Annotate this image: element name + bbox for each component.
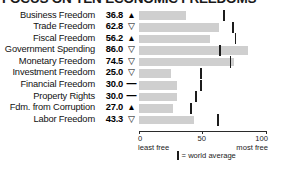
value-bar (139, 81, 177, 90)
value-bar (139, 116, 194, 125)
legend: = world average (177, 151, 236, 160)
world-average-marker (200, 80, 202, 91)
freedom-row-plot (139, 33, 266, 45)
freedom-row-plot (139, 114, 266, 126)
freedom-row-value: 62.8 (98, 21, 123, 31)
freedom-row-label: Property Rights (33, 91, 95, 101)
world-average-marker (235, 33, 237, 44)
freedom-row-label: Financial Freedom (21, 79, 95, 89)
legend-label: = world average (182, 151, 236, 160)
freedom-row-label: Fiscal Freedom (33, 33, 95, 43)
trend-up-icon: ▲ (126, 10, 137, 20)
freedom-row-label: Fdm. from Corruption (10, 102, 95, 112)
freedom-row-plot (139, 80, 266, 92)
freedom-row-label: Investment Freedom (12, 67, 95, 77)
freedom-row-value: 30.0 (98, 79, 123, 89)
value-bar (139, 35, 210, 44)
freedom-row-value: 25.0 (98, 67, 123, 77)
freedom-row-value: 36.8 (98, 10, 123, 20)
freedom-row: Government Spending86.0▽ (0, 45, 281, 57)
world-average-marker (200, 68, 202, 79)
trend-down-icon: ▽ (126, 21, 137, 31)
freedom-row-plot (139, 56, 266, 68)
axis-tick-label: 50 (198, 134, 206, 143)
economic-freedoms-chart: FOCUS ON TEN ECONOMIC FREEDOMS Business … (0, 0, 281, 171)
freedom-row-label: Monetary Freedom (19, 56, 95, 66)
trend-flat-icon: — (126, 91, 137, 101)
freedom-row: Trade Freedom62.8▽ (0, 22, 281, 34)
freedom-row-value: 27.0 (98, 102, 123, 112)
world-average-marker (219, 45, 221, 56)
trend-down-icon: ▽ (126, 67, 137, 77)
value-bar (139, 104, 173, 113)
trend-flat-icon: — (126, 79, 137, 89)
value-bar (139, 23, 219, 32)
freedom-row-plot (139, 68, 266, 80)
trend-down-icon: ▽ (126, 44, 137, 54)
freedom-row-value: 56.2 (98, 33, 123, 43)
trend-up-icon: ▲ (126, 102, 137, 112)
trend-down-icon: ▽ (126, 56, 137, 66)
world-average-marker (190, 103, 192, 114)
freedom-row-value: 86.0 (98, 44, 123, 54)
freedom-row-plot (139, 91, 266, 103)
freedom-row-value: 30.0 (98, 91, 123, 101)
freedom-row-label: Business Freedom (20, 10, 95, 20)
freedom-row-plot (139, 45, 266, 57)
freedom-row: Labor Freedom43.3▽ (0, 114, 281, 126)
freedom-row: Financial Freedom30.0— (0, 80, 281, 92)
value-bar (139, 11, 186, 20)
trend-down-icon: ▽ (126, 114, 137, 124)
freedom-row: Monetary Freedom74.5▽ (0, 56, 281, 68)
freedom-row-plot (139, 10, 266, 22)
freedom-row-label: Labor Freedom (33, 114, 95, 124)
axis-tick-sublabel: least free (138, 143, 169, 152)
freedom-row-label: Trade Freedom (33, 21, 95, 31)
world-average-marker (232, 22, 234, 33)
value-bar (139, 46, 248, 55)
world-average-marker (195, 91, 197, 102)
freedom-row-plot (139, 103, 266, 115)
value-bar (139, 58, 234, 67)
freedom-row: Fiscal Freedom56.2▲ (0, 33, 281, 45)
value-bar (139, 69, 171, 78)
freedom-row: Investment Freedom25.0▽ (0, 68, 281, 80)
freedom-row: Business Freedom36.8▲ (0, 10, 281, 22)
page-title: FOCUS ON TEN ECONOMIC FREEDOMS (2, 0, 256, 6)
value-bar (139, 93, 177, 102)
freedom-row-label: Government Spending (5, 44, 95, 54)
freedom-row-value: 74.5 (98, 56, 123, 66)
trend-up-icon: ▲ (126, 33, 137, 43)
world-average-marker (217, 114, 219, 125)
freedom-row: Property Rights30.0— (0, 91, 281, 103)
world-average-marker (230, 56, 232, 67)
world-average-marker (223, 10, 225, 21)
freedom-row-value: 43.3 (98, 114, 123, 124)
world-average-tick-icon (177, 151, 179, 160)
freedom-row: Fdm. from Corruption27.0▲ (0, 103, 281, 115)
freedom-rows-list: Business Freedom36.8▲Trade Freedom62.8▽F… (0, 10, 281, 126)
freedom-row-plot (139, 22, 266, 34)
axis-tick-sublabel: most free (236, 143, 268, 152)
